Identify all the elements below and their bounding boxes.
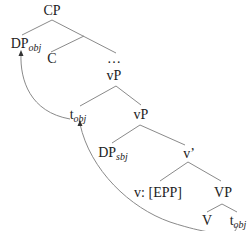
node-label: CP: [43, 3, 60, 18]
syntax-tree-diagram: CP DPobj C … vP tobj vP DPsbj v’ v: [EPP…: [0, 0, 248, 231]
node-label: v: [EPP]: [134, 185, 182, 200]
node-vp-top: vP: [107, 69, 122, 83]
node-t-obj-mid: tobj: [70, 108, 87, 122]
node-label: v’: [183, 146, 195, 161]
node-label: DP: [11, 36, 29, 51]
node-label: DP: [98, 145, 116, 160]
node-label: …: [107, 51, 121, 66]
node-subscript: sbj: [116, 151, 128, 162]
edge-cp-dpobj: [22, 20, 52, 35]
node-vp-low: VP: [214, 186, 232, 200]
node-subscript: obj: [74, 113, 87, 124]
movement-arrow-high: [21, 54, 70, 119]
node-dp-obj: DPobj: [11, 37, 42, 51]
node-label: vP: [134, 107, 149, 122]
edge-cp-c: [51, 36, 84, 52]
node-vp-mid: vP: [134, 108, 149, 122]
movement-arrow-low: [80, 124, 236, 231]
node-label: C: [47, 51, 56, 66]
node-subscript: obj: [234, 219, 247, 230]
edge-vbar-vp: [188, 162, 221, 181]
node-dp-sbj: DPsbj: [98, 146, 128, 160]
edge-vbar-vepp: [160, 162, 188, 181]
node-v-bar: v’: [183, 147, 195, 161]
edge-vp-tobj: [222, 204, 237, 212]
node-c: C: [47, 52, 56, 66]
node-label: V: [202, 213, 212, 228]
node-ellipsis: …: [107, 52, 121, 66]
edge-vp-tobj: [80, 86, 116, 106]
node-v-head: V: [202, 214, 212, 228]
edge-vp-vbar: [140, 125, 185, 145]
node-subscript: obj: [29, 42, 42, 53]
node-label: VP: [214, 185, 232, 200]
node-label: vP: [107, 68, 122, 83]
node-cp: CP: [43, 4, 60, 18]
edge-vp-v: [207, 204, 222, 212]
node-v-epp: v: [EPP]: [134, 186, 182, 200]
node-t-obj-low: tobj: [230, 214, 247, 228]
edge-vp-vp: [116, 86, 141, 105]
tree-branches: [0, 0, 248, 231]
edge-vp-dpsbj: [112, 125, 140, 143]
